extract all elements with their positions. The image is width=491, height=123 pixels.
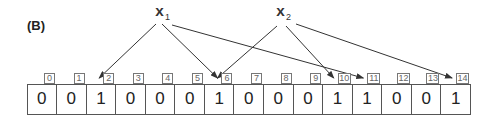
bit-index-label: 1	[74, 73, 85, 84]
bit-index-label: 9	[310, 73, 321, 84]
bit-cell: 1	[322, 84, 353, 115]
bit-cell: 0	[145, 84, 176, 115]
bit-cell: 1	[86, 84, 117, 115]
bit-index-label: 11	[367, 73, 380, 84]
bit-cell: 0	[233, 84, 264, 115]
bit-index-label: 10	[338, 73, 351, 84]
bit-index-label: 4	[162, 73, 173, 84]
bit-cell: 0	[56, 84, 87, 115]
arrow-x1-to-6	[162, 24, 217, 78]
bit-index-label: 14	[456, 73, 469, 84]
bit-cell: 0	[411, 84, 442, 115]
bit-index-label: 12	[397, 73, 410, 84]
bit-index-label: 2	[103, 73, 114, 84]
bit-index-label: 3	[133, 73, 144, 84]
bit-cell: 0	[174, 84, 205, 115]
arrow-x1-to-2	[99, 24, 156, 78]
bit-index-label: 13	[426, 73, 439, 84]
bit-index-label: 6	[221, 73, 232, 84]
bit-cell: 0	[115, 84, 146, 115]
bit-cell: 0	[293, 84, 324, 115]
bit-cell: 0	[381, 84, 412, 115]
arrow-x1-to-11	[172, 25, 363, 78]
bit-index-label: 8	[281, 73, 292, 84]
bloom-filter-diagram: (B) x1 x2 000112030405160708091101110120…	[0, 0, 491, 123]
bit-cell: 1	[204, 84, 235, 115]
bit-cell: 1	[352, 84, 383, 115]
bit-index-label: 5	[192, 73, 203, 84]
arrow-x2-to-10	[286, 26, 334, 78]
bit-cell: 1	[440, 84, 471, 115]
bit-cell: 0	[27, 84, 58, 115]
bit-cell: 0	[263, 84, 294, 115]
arrow-x2-to-14	[296, 24, 452, 78]
bit-index-label: 7	[251, 73, 262, 84]
bit-index-label: 0	[44, 73, 55, 84]
